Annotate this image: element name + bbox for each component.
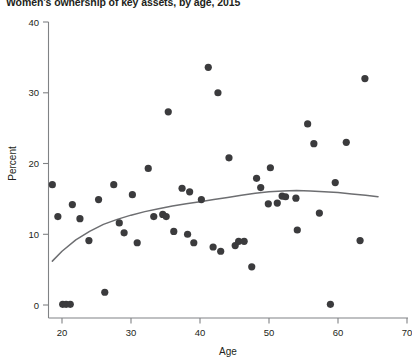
scatter-point: [248, 263, 255, 270]
x-tick-label-60: 60: [333, 327, 344, 338]
scatter-point: [101, 289, 108, 296]
x-axis-tick-labels: 20 30 40 50 60 70: [57, 327, 412, 338]
scatter-point: [225, 154, 232, 161]
x-tick-label-30: 30: [126, 327, 137, 338]
scatter-point: [121, 229, 128, 236]
x-axis-title: Age: [219, 346, 237, 357]
scatter-point: [110, 181, 117, 188]
scatter-points-group: [49, 64, 369, 308]
y-tick-label-0: 0: [34, 300, 39, 311]
scatter-point: [69, 201, 76, 208]
scatter-point: [116, 219, 123, 226]
y-axis-ticks: [43, 22, 49, 305]
y-axis: 40 30 20 10 0 Percent: [7, 17, 49, 319]
scatter-point: [316, 209, 323, 216]
scatter-point: [253, 175, 260, 182]
x-axis-ticks: [62, 318, 407, 324]
scatter-point: [217, 248, 224, 255]
scatter-point: [214, 89, 221, 96]
x-tick-label-50: 50: [264, 327, 275, 338]
scatter-point: [241, 238, 248, 245]
scatter-point: [95, 196, 102, 203]
y-tick-label-20: 20: [28, 158, 39, 169]
scatter-point: [134, 239, 141, 246]
scatter-point: [129, 191, 136, 198]
x-axis: 20 30 40 50 60 70 Age: [49, 318, 412, 357]
scatter-point: [186, 188, 193, 195]
scatter-point: [190, 239, 197, 246]
scatter-point: [145, 165, 152, 172]
scatter-point: [292, 195, 299, 202]
chart-plot-area: 40 30 20 10 0 Percent 20 30 40: [0, 0, 412, 359]
scatter-point: [356, 237, 363, 244]
scatter-point: [163, 213, 170, 220]
scatter-chart: Women's ownership of key assets, by age,…: [0, 0, 412, 359]
scatter-point: [265, 200, 272, 207]
scatter-point: [304, 120, 311, 127]
scatter-point: [210, 243, 217, 250]
y-axis-title: Percent: [7, 146, 18, 181]
scatter-point: [282, 193, 289, 200]
x-tick-label-20: 20: [57, 327, 68, 338]
y-tick-label-10: 10: [28, 229, 39, 240]
scatter-point: [294, 226, 301, 233]
scatter-point: [274, 200, 281, 207]
x-tick-label-70: 70: [402, 327, 412, 338]
scatter-point: [205, 64, 212, 71]
scatter-point: [85, 237, 92, 244]
y-tick-label-30: 30: [28, 87, 39, 98]
y-axis-tick-labels: 40 30 20 10 0: [28, 17, 39, 311]
scatter-point: [198, 196, 205, 203]
scatter-point: [170, 228, 177, 235]
scatter-point: [184, 231, 191, 238]
scatter-point: [150, 213, 157, 220]
scatter-point: [310, 140, 317, 147]
scatter-point: [332, 179, 339, 186]
scatter-point: [267, 164, 274, 171]
scatter-point: [361, 75, 368, 82]
y-tick-label-40: 40: [28, 17, 39, 28]
scatter-point: [178, 185, 185, 192]
scatter-point: [67, 301, 74, 308]
scatter-point: [76, 215, 83, 222]
scatter-point: [257, 184, 264, 191]
scatter-point: [54, 213, 61, 220]
scatter-point: [327, 301, 334, 308]
x-tick-label-40: 40: [195, 327, 206, 338]
scatter-point: [343, 139, 350, 146]
scatter-point: [165, 108, 172, 115]
scatter-point: [49, 181, 56, 188]
